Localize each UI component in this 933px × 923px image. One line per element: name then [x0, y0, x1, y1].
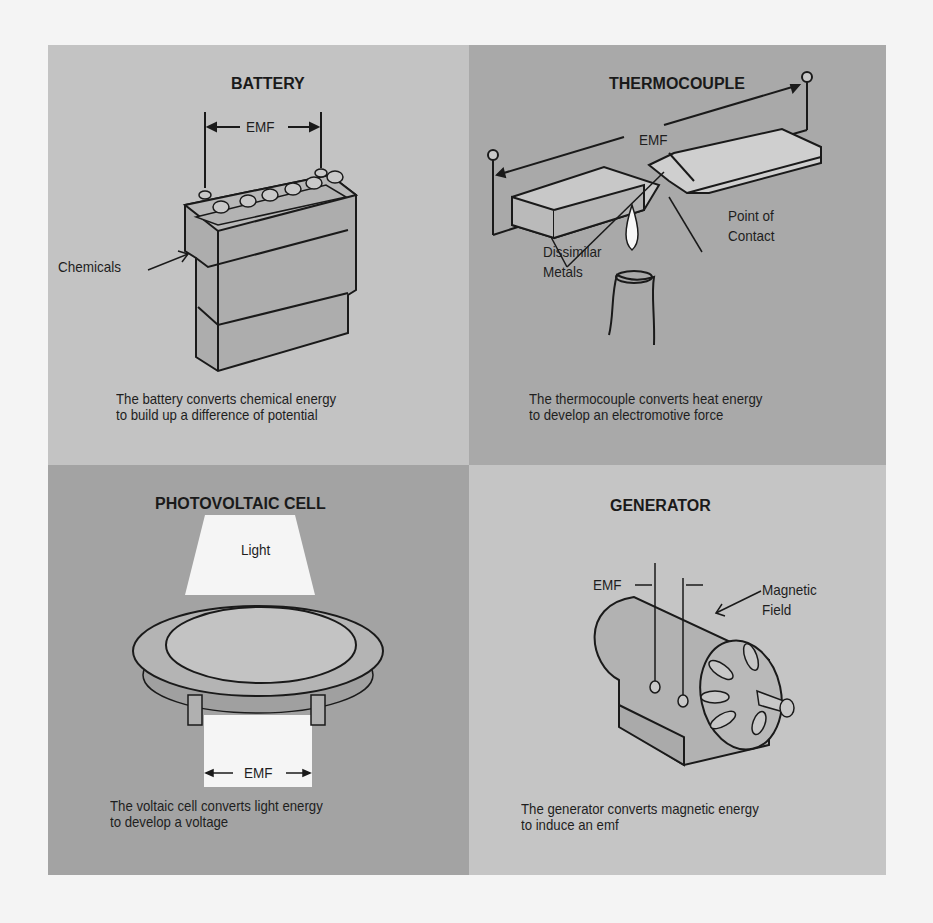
point-of-contact-label-line2: Contact	[728, 227, 775, 245]
generator-caption-line1: The generator converts magnetic energy	[521, 801, 759, 817]
battery-title: BATTERY	[231, 75, 305, 93]
light-label: Light	[241, 541, 270, 559]
thermocouple-caption-line2: to develop an electromotive force	[529, 407, 723, 423]
photovoltaic-title: PHOTOVOLTAIC CELL	[155, 495, 326, 513]
battery-caption-line1: The battery converts chemical energy	[116, 391, 336, 407]
energy-sources-diagram: BATTERY EMF Chemicals The battery conver…	[48, 45, 886, 875]
point-of-contact-label-line1: Point of	[728, 207, 774, 225]
thermocouple-title: THERMOCOUPLE	[609, 75, 745, 93]
thermocouple-panel: THERMOCOUPLE EMF Dissimilar Metals Point…	[469, 45, 886, 465]
battery-caption-line2: to build up a difference of potential	[116, 407, 318, 423]
dissimilar-metals-label-line1: Dissimilar	[543, 243, 602, 261]
generator-panel: GENERATOR EMF Magnetic Field The generat…	[469, 465, 886, 875]
dissimilar-metals-label-line2: Metals	[543, 263, 583, 281]
generator-emf-label: EMF	[593, 576, 622, 594]
battery-panel: BATTERY EMF Chemicals The battery conver…	[48, 45, 469, 465]
chemicals-label: Chemicals	[58, 258, 121, 276]
magnetic-field-label-line2: Field	[762, 601, 791, 619]
photovoltaic-emf-label: EMF	[244, 764, 273, 782]
photovoltaic-caption-line2: to develop a voltage	[110, 814, 228, 830]
generator-caption-line2: to induce an emf	[521, 817, 619, 833]
photovoltaic-caption-line1: The voltaic cell converts light energy	[110, 798, 323, 814]
thermocouple-emf-label: EMF	[639, 131, 668, 149]
battery-emf-label: EMF	[246, 118, 275, 136]
generator-title: GENERATOR	[610, 497, 711, 515]
photovoltaic-panel: PHOTOVOLTAIC CELL Light EMF The voltaic …	[48, 465, 469, 875]
thermocouple-caption-line1: The thermocouple converts heat energy	[529, 391, 762, 407]
magnetic-field-label-line1: Magnetic	[762, 581, 817, 599]
